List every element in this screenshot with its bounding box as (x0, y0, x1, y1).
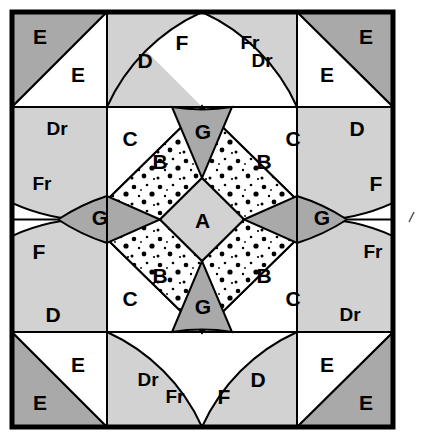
quilt-block-svg: A B B B B G G G G C C C C D Dr D Dr D Dr… (0, 0, 423, 443)
block-body (12, 12, 393, 427)
quilt-block-diagram: A B B B B G G G G C C C C D Dr D Dr D Dr… (0, 0, 423, 443)
